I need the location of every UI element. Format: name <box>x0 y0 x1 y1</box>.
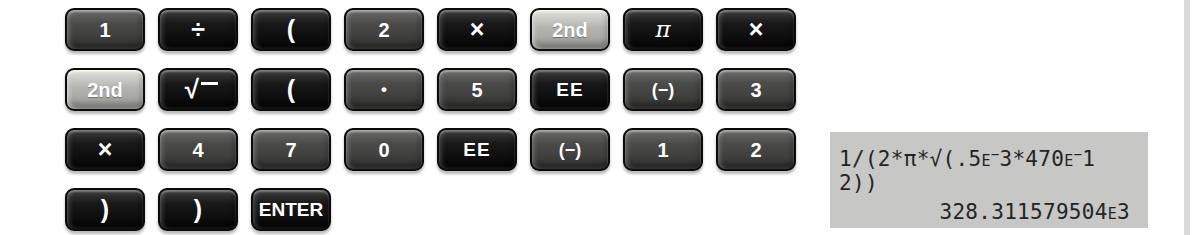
key-7[interactable]: 7 <box>251 128 331 171</box>
key-label: 2 <box>750 140 761 160</box>
key-2nd[interactable]: 2nd <box>65 68 145 111</box>
display-text-segment: − <box>1074 146 1083 162</box>
key-label: × <box>749 17 764 42</box>
key-label: ( <box>287 77 295 102</box>
display-text-segment: 1 <box>1082 147 1095 171</box>
display-line: 2)) <box>839 169 1138 198</box>
key-label: EE <box>556 80 583 99</box>
key-label: 5 <box>471 80 482 100</box>
key-label: 4 <box>192 140 203 160</box>
key-label: 0 <box>378 140 389 160</box>
key-5[interactable]: 5 <box>437 68 517 111</box>
key-multiply[interactable]: × <box>437 8 517 51</box>
key-label: ENTER <box>259 200 323 219</box>
key-row: ))ENTER <box>65 188 331 231</box>
key-3[interactable]: 3 <box>716 68 796 111</box>
key-ee[interactable]: EE <box>437 128 517 171</box>
display-text-segment: 328.311579504 <box>939 200 1107 224</box>
key-ee[interactable]: EE <box>530 68 610 111</box>
key-close-paren[interactable]: ) <box>158 188 238 231</box>
key-2nd[interactable]: 2nd <box>530 8 610 51</box>
key-label: √ <box>185 76 199 102</box>
key-negate[interactable]: (−) <box>623 68 703 111</box>
key-open-paren[interactable]: ( <box>251 68 331 111</box>
key-label: ÷ <box>191 17 205 42</box>
key-label: 2nd <box>87 80 123 100</box>
key-0[interactable]: 0 <box>344 128 424 171</box>
key-1[interactable]: 1 <box>65 8 145 51</box>
key-row: 1÷(2×2ndπ× <box>65 8 796 51</box>
key-label: 1 <box>99 20 110 40</box>
key-2[interactable]: 2 <box>344 8 424 51</box>
key-multiply[interactable]: × <box>65 128 145 171</box>
key-multiply[interactable]: × <box>716 8 796 51</box>
key-label: 2 <box>378 20 389 40</box>
key-negate[interactable]: (−) <box>530 128 610 171</box>
display-text-segment: 2)) <box>839 171 878 195</box>
key-pi[interactable]: π <box>623 8 703 51</box>
key-2[interactable]: 2 <box>716 128 796 171</box>
key-label: (−) <box>652 81 675 99</box>
key-close-paren[interactable]: ) <box>65 188 145 231</box>
display-line: 328.311579504E3 <box>839 198 1138 227</box>
display-text-segment: 3 <box>1117 200 1130 224</box>
key-label: ( <box>287 17 295 42</box>
key-enter[interactable]: ENTER <box>251 188 331 231</box>
key-decimal-point[interactable]: • <box>344 68 424 111</box>
sqrt-overbar <box>201 82 218 85</box>
calculator-keystroke-figure: 1÷(2×2ndπ×2nd√(•5EE(−)3×470EE(−)12))ENTE… <box>0 0 1194 235</box>
key-label: π <box>655 18 670 41</box>
display-line: 1/(2*π*√(.5E−3*470E−1 <box>839 140 1138 169</box>
key-1[interactable]: 1 <box>623 128 703 171</box>
key-label: × <box>98 137 113 162</box>
display-text-segment: 1/(2*π*√(.5 <box>839 147 981 171</box>
key-label: • <box>381 81 387 98</box>
key-label: 7 <box>285 140 296 160</box>
key-row: ×470EE(−)12 <box>65 128 796 171</box>
display-text-segment: E <box>981 152 990 170</box>
key-label: × <box>470 17 485 42</box>
key-label: ) <box>194 197 202 222</box>
key-sqrt[interactable]: √ <box>158 68 238 111</box>
display-text-segment: E <box>1108 205 1117 223</box>
display-text-segment: 3*470 <box>999 147 1064 171</box>
key-label: ) <box>101 197 109 222</box>
key-row: 2nd√(•5EE(−)3 <box>65 68 796 111</box>
page-edge-strip <box>1184 0 1190 235</box>
display-text-segment: E <box>1064 152 1073 170</box>
calculator-display: 1/(2*π*√(.5E−3*470E−12))328.311579504E3 <box>830 132 1148 228</box>
key-divide[interactable]: ÷ <box>158 8 238 51</box>
key-label: 1 <box>657 140 668 160</box>
key-label: EE <box>463 140 490 159</box>
key-label: 2nd <box>552 20 588 40</box>
key-label: (−) <box>559 141 582 159</box>
key-4[interactable]: 4 <box>158 128 238 171</box>
key-label: 3 <box>750 80 761 100</box>
key-open-paren[interactable]: ( <box>251 8 331 51</box>
